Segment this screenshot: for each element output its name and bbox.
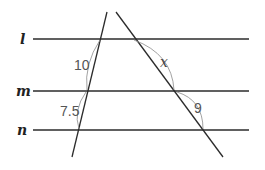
transversal-right [116, 12, 223, 157]
geometry-diagram: l m n 10 7.5 x 9 [0, 0, 265, 170]
label-line-m: m [16, 83, 31, 99]
label-segment-10: 10 [74, 57, 90, 73]
label-line-n: n [17, 122, 27, 138]
label-segment-x: x [160, 54, 168, 70]
diagram-canvas: l m n 10 7.5 x 9 [0, 0, 265, 170]
transversal-left [72, 12, 107, 157]
label-segment-7-5: 7.5 [60, 103, 80, 119]
label-segment-9: 9 [194, 100, 202, 116]
label-line-l: l [20, 31, 25, 47]
